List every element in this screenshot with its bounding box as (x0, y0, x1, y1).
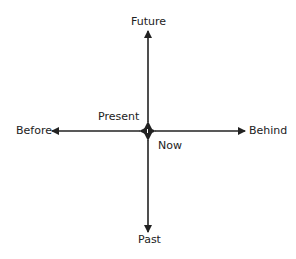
label-behind: Behind (249, 124, 287, 137)
label-now: Now (158, 139, 182, 152)
label-past: Past (138, 233, 161, 246)
label-present: Present (98, 110, 139, 123)
label-future: Future (131, 15, 166, 28)
label-before: Before (16, 124, 52, 137)
